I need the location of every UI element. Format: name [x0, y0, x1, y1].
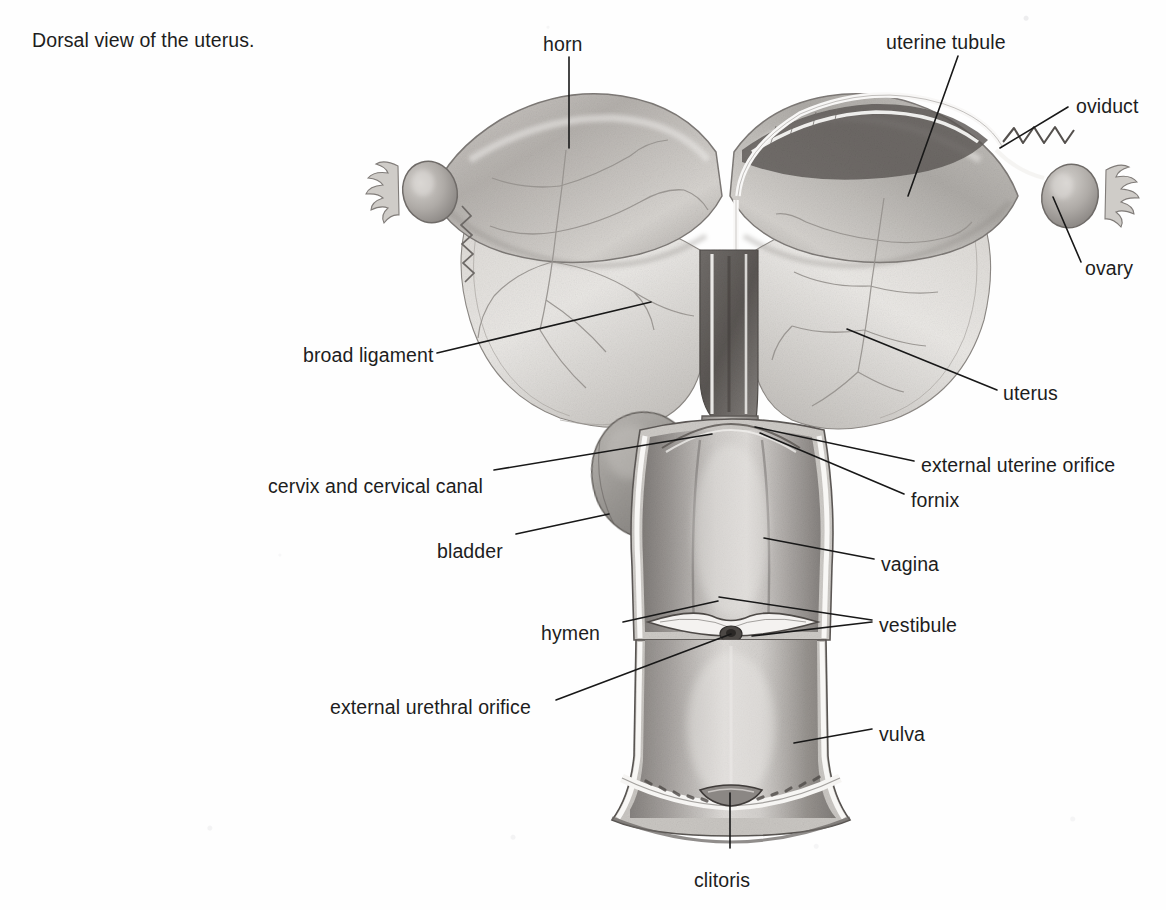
label-oviduct: oviduct [1076, 95, 1139, 117]
ovary-right [1035, 158, 1139, 234]
label-clitoris: clitoris [694, 869, 750, 891]
label-bladder: bladder [437, 540, 503, 562]
label-ovary: ovary [1085, 257, 1133, 279]
leader-bladder [516, 514, 609, 534]
label-vagina: vagina [881, 553, 939, 575]
figure-page: Dorsal view of the uterus. [0, 0, 1166, 910]
label-fornix: fornix [911, 489, 959, 511]
leader-oviduct [1000, 107, 1068, 148]
label-uterine-tubule: uterine tubule [886, 31, 1006, 53]
uterus-body [700, 250, 758, 420]
label-vulva: vulva [879, 723, 925, 745]
vagina [631, 419, 833, 642]
label-horn: horn [543, 33, 582, 55]
label-broad-ligament: broad ligament [303, 344, 433, 366]
label-external-urethral-orifice: external urethral orifice [330, 696, 531, 718]
label-vestibule: vestibule [879, 614, 957, 636]
label-external-uterine-orifice: external uterine orifice [921, 454, 1115, 476]
label-cervix-and-cervical-canal: cervix and cervical canal [268, 475, 483, 497]
label-uterus: uterus [1003, 382, 1058, 404]
label-hymen: hymen [541, 622, 600, 644]
